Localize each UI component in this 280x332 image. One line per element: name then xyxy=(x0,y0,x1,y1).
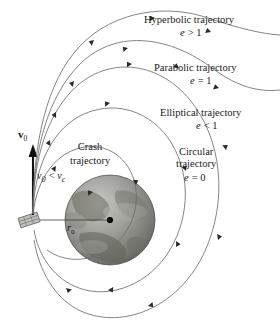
crash-trajectory-name-line1: Crash xyxy=(70,141,110,153)
parabolic-trajectory-name: Parabolic trajectory xyxy=(154,62,237,74)
elliptical-eccentricity-label: e< 1 xyxy=(196,120,217,132)
hyperbolic-trajectory-label: Hyperbolic trajectory xyxy=(144,14,234,26)
hyperbolic-trajectory-name: Hyperbolic trajectory xyxy=(144,14,234,26)
parabolic-eccentricity-symbol: e xyxy=(190,75,195,86)
hyperbolic-eccentricity-relation: > 1 xyxy=(188,27,202,38)
elliptical-eccentricity-relation: < 1 xyxy=(204,120,218,131)
elliptical-eccentricity-symbol: e xyxy=(196,120,201,131)
hyperbolic-eccentricity-label: e> 1 xyxy=(180,27,201,39)
velocity-vector-label: v0 xyxy=(18,128,27,144)
circular-eccentricity-symbol: e xyxy=(184,172,189,183)
speed-condition-subscript-critical: c xyxy=(62,175,66,184)
radius-label: r0 xyxy=(67,222,75,236)
speed-condition-subscript-initial: 0 xyxy=(41,175,45,184)
radius-subscript: 0 xyxy=(71,228,75,236)
parabolic-eccentricity-label: e= 1 xyxy=(190,75,211,87)
hyperbolic-eccentricity-symbol: e xyxy=(180,27,185,38)
diagram-canvas xyxy=(0,0,280,332)
parabolic-trajectory-label: Parabolic trajectory xyxy=(154,62,237,74)
parabolic-eccentricity-relation: = 1 xyxy=(198,75,212,86)
circular-trajectory-label: Circular trajectory xyxy=(176,146,216,170)
circular-eccentricity-relation: = 0 xyxy=(192,172,206,183)
elliptical-trajectory-label: Elliptical trajectory xyxy=(160,107,241,119)
hyperbolic-trajectory-curve xyxy=(33,11,280,214)
velocity-vector-subscript: 0 xyxy=(24,134,28,143)
circular-trajectory-name-line1: Circular xyxy=(176,146,216,158)
speed-condition-relation: < xyxy=(49,170,55,181)
orbital-trajectory-diagram: Hyperbolic trajectory e> 1 Parabolic tra… xyxy=(0,0,280,332)
elliptical-trajectory-name: Elliptical trajectory xyxy=(160,107,241,119)
crash-trajectory-label: Crash trajectory xyxy=(70,141,110,167)
launch-platform xyxy=(18,212,40,228)
circular-eccentricity-label: e= 0 xyxy=(184,172,205,184)
speed-condition-label: v0<vc xyxy=(37,170,65,184)
circular-trajectory-name-line2: trajectory xyxy=(176,158,216,170)
crash-trajectory-name-line2: trajectory xyxy=(70,155,110,167)
